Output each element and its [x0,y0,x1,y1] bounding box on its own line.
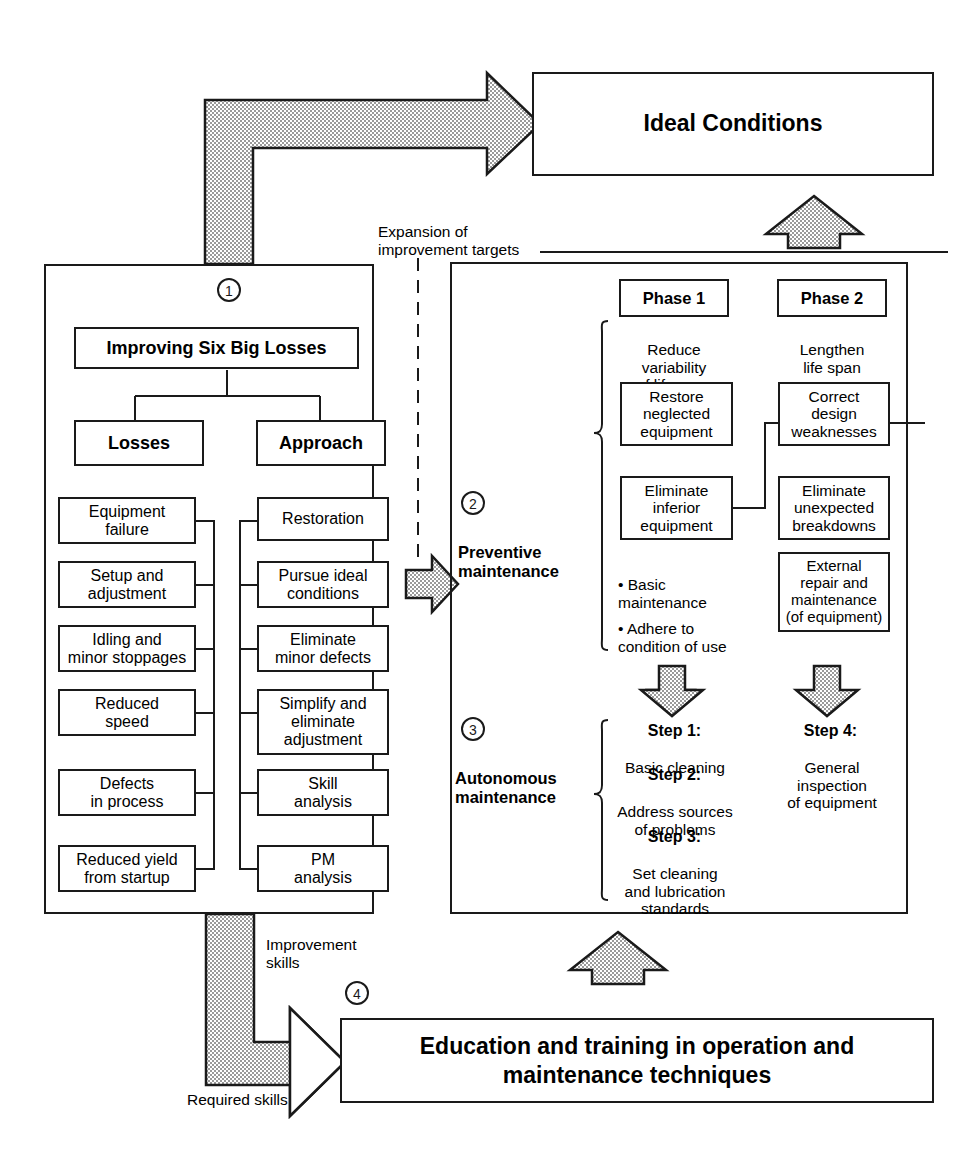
marker-one: 1 [216,277,242,303]
phase-2-caption: Lengthen life span [772,323,892,376]
approach-column-header: Approach [256,420,386,466]
step-4-title: Step 4: [768,722,893,740]
svg-text:2: 2 [469,496,477,512]
svg-text:4: 4 [353,986,361,1002]
approach-box-1: Restoration [257,497,389,541]
up-arrow-to-ideal-conditions [766,196,862,248]
approach-box-2: Pursue ideal conditions [257,561,389,608]
eliminate-inferior-equipment-box: Eliminate inferior equipment [620,476,733,540]
ideal-conditions-box: Ideal Conditions [532,72,934,176]
ideal-conditions-label: Ideal Conditions [644,111,823,137]
expansion-of-improvement-targets-label: Expansion of improvement targets [378,205,568,258]
preventive-maintenance-label: Preventive maintenance [458,524,608,581]
svg-text:1: 1 [225,283,233,299]
correct-design-weaknesses-box: Correct design weaknesses [778,382,890,446]
loss-box-3: Idling and minor stoppages [58,625,196,672]
loss-box-1: Equipment failure [58,497,196,544]
education-and-training-box: Education and training in operation and … [340,1018,934,1103]
step-2-title: Step 2: [612,766,737,784]
step-4-body: General inspection of equipment [763,741,901,812]
improvement-skills-label: Improvement skills [266,918,416,971]
step-3-title: Step 3: [612,828,737,846]
phase-2-header-box: Phase 2 [777,279,887,317]
preventive-bullet-2: • Adhere to condition of use [618,602,778,655]
marker-three: 3 [460,716,486,746]
autonomous-maintenance-label: Autonomous maintenance [455,750,607,807]
marker-four: 4 [344,980,370,1010]
losses-column-header: Losses [74,420,204,466]
loss-box-6: Reduced yield from startup [58,845,196,892]
required-skills-label: Required skills [187,1091,347,1109]
approach-box-6: PM analysis [257,845,389,892]
approach-box-5: Skill analysis [257,769,389,816]
loss-box-2: Setup and adjustment [58,561,196,608]
up-arrow-to-autonomous [570,932,666,984]
step-1-title: Step 1: [612,722,737,740]
improving-six-big-losses-box: Improving Six Big Losses [74,327,359,369]
tpm-diagram-canvas: Ideal Conditions Expansion of improvemen… [0,0,960,1163]
approach-box-4: Simplify and eliminate adjustment [257,689,389,755]
external-repair-maintenance-box: External repair and maintenance (of equi… [778,552,890,632]
eliminate-unexpected-breakdowns-box: Eliminate unexpected breakdowns [778,476,890,540]
phase-1-header-box: Phase 1 [619,279,729,317]
approach-box-3: Eliminate minor defects [257,625,389,672]
svg-text:3: 3 [469,722,477,738]
restore-neglected-equipment-box: Restore neglected equipment [620,382,733,446]
step-3-body: Set cleaning and lubrication standards [600,847,750,918]
loss-box-5: Defects in process [58,769,196,816]
marker-two: 2 [460,490,486,520]
loss-box-4: Reduced speed [58,689,196,736]
